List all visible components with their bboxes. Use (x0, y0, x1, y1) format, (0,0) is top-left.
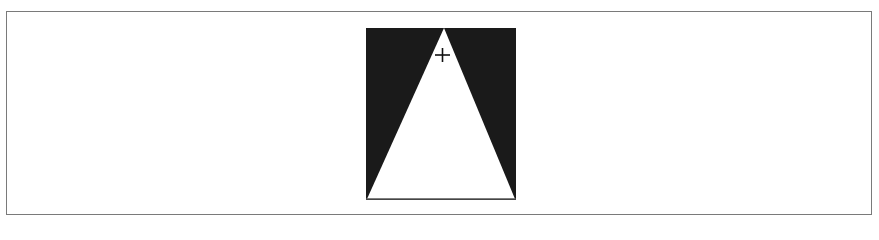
triangle-figure (366, 28, 516, 200)
